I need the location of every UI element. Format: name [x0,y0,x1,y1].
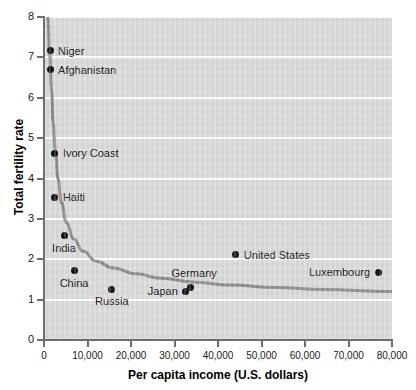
gridline [44,258,392,260]
x-axis-tick-label: 10,000 [72,351,103,361]
data-point-label: Russia [95,296,129,307]
data-point-label: Ivory Coast [63,148,119,159]
data-point-label: Niger [58,45,84,56]
data-point-label: Afghanistan [58,64,116,75]
gridline [44,16,392,18]
data-point-label: China [60,278,89,289]
y-axis-tick-label: 1 [6,294,34,305]
data-point [51,194,58,201]
y-axis-tick-label: 8 [6,11,34,22]
data-point [187,284,194,291]
x-axis-tick-label: 50,000 [246,351,277,361]
x-axis-tick-label: 0 [41,351,47,361]
y-axis-tick [37,16,44,18]
plot-area: NigerAfghanistanIvory CoastHaitiIndiaChi… [44,17,392,340]
y-axis-tick-label: 7 [6,51,34,62]
x-axis-tick [348,341,350,347]
y-axis-tick [37,178,44,180]
gridline [44,218,392,220]
x-axis-tick [261,341,263,347]
y-axis-tick-label: 0 [6,334,34,345]
gridline [44,137,392,139]
gridline [44,56,392,58]
x-axis-tick [217,341,219,347]
x-axis-tick [43,341,45,347]
y-axis-tick [37,137,44,139]
fertility-vs-income-scatter-chart: NigerAfghanistanIvory CoastHaitiIndiaChi… [0,0,416,390]
x-axis-tick [391,341,393,347]
data-point [108,286,115,293]
data-point [71,267,78,274]
data-point [51,150,58,157]
data-point [232,251,239,258]
y-axis-title: Total fertility rate [12,72,26,262]
data-point [61,232,68,239]
data-point-label: Germany [172,268,217,279]
y-axis-tick [37,258,44,260]
x-axis-tick [87,341,89,347]
gridline [44,97,392,99]
data-point [47,66,54,73]
x-axis-tick-label: 20,000 [116,351,147,361]
data-point-label: United States [244,249,310,260]
y-axis-tick [37,299,44,301]
y-axis-tick [37,56,44,58]
data-point [375,269,382,276]
data-point [47,47,54,54]
y-axis-tick [37,218,44,220]
data-point-label: Haiti [63,192,85,203]
x-axis-title: Per capita income (U.S. dollars) [44,368,392,382]
x-axis-tick [130,341,132,347]
x-axis-tick [304,341,306,347]
x-axis-tick-label: 80,000 [377,351,408,361]
x-axis-tick [174,341,176,347]
x-axis-tick-label: 30,000 [159,351,190,361]
x-axis-tick-label: 40,000 [203,351,234,361]
y-axis-tick [37,97,44,99]
data-point-label: Luxembourg [309,267,370,278]
gridline [44,178,392,180]
x-axis-tick-label: 60,000 [290,351,321,361]
x-axis-tick-label: 70,000 [333,351,364,361]
data-point-label: Japan [148,286,178,297]
data-point-label: India [52,243,76,254]
